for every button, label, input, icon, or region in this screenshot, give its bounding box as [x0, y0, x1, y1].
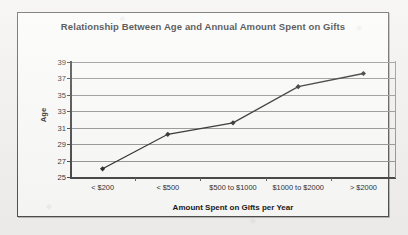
chart-frame: Relationship Between Age and Annual Amou… [17, 12, 389, 217]
y-tick-label: 35 [44, 90, 66, 99]
x-tick-mark [266, 178, 267, 181]
x-tick-label: < $200 [91, 183, 114, 192]
data-point-marker [361, 71, 366, 76]
data-point-marker [230, 120, 235, 125]
x-axis-title: Amount Spent on Gifts per Year [70, 203, 396, 212]
x-tick-label: $500 to $1000 [209, 183, 256, 192]
x-axis-line [70, 177, 396, 179]
y-tick-label: 33 [44, 107, 66, 116]
data-point-marker [100, 166, 105, 171]
x-tick-mark [200, 178, 201, 181]
x-tick-label: < $500 [156, 183, 179, 192]
x-tick-label: > $2000 [350, 183, 377, 192]
y-tick-label: 27 [44, 156, 66, 165]
x-tick-mark [331, 178, 332, 181]
data-series-line [70, 62, 396, 177]
x-tick-label: $1000 to $2000 [273, 183, 324, 192]
data-point-marker [296, 84, 301, 89]
y-tick-label: 25 [44, 173, 66, 182]
y-tick-label: 31 [44, 123, 66, 132]
y-tick-label: 37 [44, 74, 66, 83]
y-tick-label: 29 [44, 140, 66, 149]
y-tick-label: 39 [44, 58, 66, 67]
chart-title: Relationship Between Age and Annual Amou… [18, 21, 388, 32]
data-point-marker [165, 132, 170, 137]
x-tick-mark [135, 178, 136, 181]
